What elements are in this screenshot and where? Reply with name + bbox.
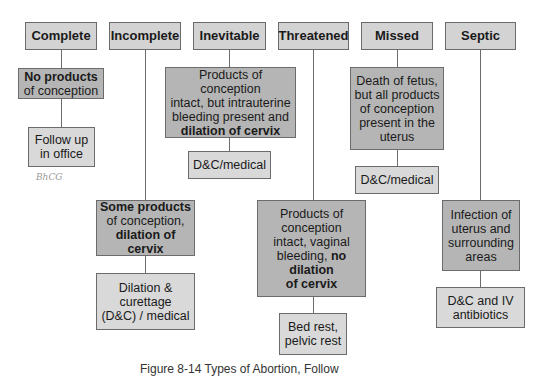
connector-septic-2	[480, 271, 481, 287]
description-incomplete: Some products of conception, dilation of…	[96, 200, 195, 256]
figure-caption: Figure 8-14 Types of Abortion, Follow	[140, 362, 339, 376]
desc-line: of conception,	[107, 214, 185, 228]
treatment-complete: Follow up in office	[28, 127, 95, 167]
desc-line: dilation	[289, 263, 333, 277]
header-label: Threatened	[278, 29, 348, 43]
treatment-line: pelvic rest	[285, 334, 341, 348]
desc-line: bleeding present and	[172, 110, 289, 124]
desc-line: of conception	[24, 84, 98, 98]
header-label: Inevitable	[200, 29, 260, 43]
desc-line: uterus	[380, 130, 415, 144]
connector-inevitable-2	[229, 138, 230, 151]
desc-line: uterus and	[451, 222, 510, 236]
connector-complete-2	[61, 99, 62, 127]
header-missed: Missed	[361, 22, 433, 50]
desc-line: dilation of cervix	[100, 228, 191, 256]
connector-septic-1	[480, 50, 481, 200]
header-complete: Complete	[25, 22, 97, 50]
desc-line: Death of fetus,	[356, 74, 437, 88]
treatment-line: Dilation &	[119, 281, 173, 295]
header-threatened: Threatened	[278, 22, 349, 50]
desc-line: of conception	[360, 102, 434, 116]
handwritten-note: BhCG	[36, 172, 63, 182]
treatment-line: Bed rest,	[288, 320, 338, 334]
header-incomplete: Incomplete	[109, 22, 181, 50]
desc-line: conception	[281, 221, 341, 235]
treatment-line: antibiotics	[453, 308, 509, 322]
connector-complete-1	[61, 50, 62, 68]
treatment-line: D&C/medical	[193, 158, 266, 172]
desc-line: Infection of	[450, 208, 511, 222]
treatment-line: curettage	[119, 295, 171, 309]
treatment-line: D&C and IV	[447, 294, 513, 308]
connector-incomplete-2	[145, 256, 146, 273]
description-threatened: Products of conception intact, vaginal b…	[257, 200, 366, 297]
treatment-missed: D&C/medical	[355, 166, 439, 194]
desc-line: intact, but intrauterine	[170, 96, 290, 110]
desc-line: No products	[24, 70, 98, 84]
header-septic: Septic	[445, 22, 516, 50]
header-label: Septic	[461, 29, 500, 43]
desc-line: bleeding,	[277, 249, 331, 263]
description-septic: Infection of uterus and surrounding area…	[442, 200, 520, 271]
description-complete: No products of conception	[18, 68, 104, 99]
desc-line: surrounding	[448, 236, 514, 250]
desc-emphasis: no	[331, 249, 346, 263]
header-label: Missed	[375, 29, 419, 43]
connector-threatened-2	[313, 297, 314, 313]
desc-line: Some products	[100, 200, 191, 214]
desc-line: intact, vaginal	[273, 235, 349, 249]
treatment-line: D&C/medical	[361, 173, 434, 187]
desc-line: Products of	[280, 207, 343, 221]
connector-missed-1	[397, 50, 398, 67]
description-missed: Death of fetus, but all products of conc…	[350, 67, 444, 150]
treatment-incomplete: Dilation & curettage (D&C) / medical	[96, 273, 195, 330]
treatment-line: (D&C) / medical	[101, 309, 189, 323]
treatment-threatened: Bed rest, pelvic rest	[279, 313, 347, 355]
connector-inevitable-1	[229, 50, 230, 68]
desc-line: Products of conception	[169, 68, 292, 96]
header-inevitable: Inevitable	[193, 22, 266, 50]
treatment-line: in office	[40, 147, 83, 161]
header-label: Incomplete	[111, 29, 180, 43]
connector-incomplete-1	[145, 50, 146, 200]
desc-line: areas	[465, 250, 496, 264]
treatment-inevitable: D&C/medical	[188, 151, 271, 179]
connector-threatened-1	[313, 50, 314, 200]
connector-missed-2	[397, 150, 398, 166]
desc-line: of cervix	[286, 277, 337, 291]
desc-line: present in the	[359, 116, 435, 130]
header-label: Complete	[31, 29, 90, 43]
description-inevitable: Products of conception intact, but intra…	[165, 67, 296, 138]
desc-line: dilation of cervix	[181, 124, 280, 138]
treatment-septic: D&C and IV antibiotics	[436, 287, 525, 328]
treatment-line: Follow up	[35, 133, 89, 147]
desc-line: but all products	[355, 88, 440, 102]
